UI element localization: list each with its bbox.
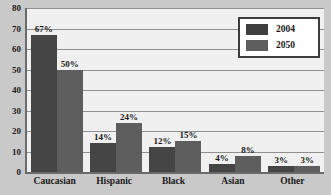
bar-caucasian-2004: 67% bbox=[31, 35, 57, 172]
x-axis: CaucasianHispanicBlackAsianOther bbox=[25, 177, 322, 193]
legend: 2004 2050 bbox=[238, 17, 320, 58]
y-axis-tick-60: 60 bbox=[0, 45, 21, 54]
bar-black-2004: 12% bbox=[149, 147, 175, 172]
x-axis-label-black: Black bbox=[162, 177, 185, 187]
bar-black-2050: 15% bbox=[175, 141, 201, 172]
bar-value-label: 8% bbox=[241, 146, 255, 155]
x-axis-label-caucasian: Caucasian bbox=[34, 177, 76, 187]
bar-value-label: 12% bbox=[153, 137, 171, 146]
y-axis-tick-30: 30 bbox=[0, 106, 21, 115]
bar-other-2050: 3% bbox=[294, 166, 320, 172]
y-axis-tick-20: 20 bbox=[0, 127, 21, 136]
bar-group-black: 12%15% bbox=[146, 8, 205, 172]
y-axis-tick-0: 0 bbox=[0, 168, 21, 177]
y-axis-tick-50: 50 bbox=[0, 65, 21, 74]
x-axis-label-hispanic: Hispanic bbox=[96, 177, 132, 187]
bar-value-label: 67% bbox=[35, 25, 53, 34]
bar-hispanic-2050: 24% bbox=[116, 123, 142, 172]
bar-value-label: 14% bbox=[94, 133, 112, 142]
y-axis-tick-10: 10 bbox=[0, 147, 21, 156]
legend-swatch-2004-icon bbox=[246, 24, 268, 35]
bar-value-label: 24% bbox=[120, 113, 138, 122]
y-axis-tick-70: 70 bbox=[0, 24, 21, 33]
bar-chart: 80706050403020100 67%50%14%24%12%15%4%8%… bbox=[0, 0, 331, 195]
bar-value-label: 4% bbox=[215, 154, 229, 163]
bar-group-caucasian: 67%50% bbox=[27, 8, 86, 172]
bar-value-label: 3% bbox=[275, 156, 289, 165]
bar-asian-2050: 8% bbox=[235, 156, 261, 172]
bar-value-label: 15% bbox=[179, 131, 197, 140]
bar-value-label: 50% bbox=[61, 60, 79, 69]
y-axis: 80706050403020100 bbox=[0, 0, 24, 175]
legend-swatch-2050-icon bbox=[246, 40, 268, 51]
legend-label-2004: 2004 bbox=[276, 25, 295, 35]
bar-value-label: 3% bbox=[301, 156, 315, 165]
bar-caucasian-2050: 50% bbox=[57, 70, 83, 173]
bar-other-2004: 3% bbox=[268, 166, 294, 172]
x-axis-label-asian: Asian bbox=[221, 177, 244, 187]
y-axis-tick-80: 80 bbox=[0, 4, 21, 13]
legend-label-2050: 2050 bbox=[276, 41, 295, 51]
legend-item-2004: 2004 bbox=[246, 24, 312, 35]
bar-asian-2004: 4% bbox=[209, 164, 235, 172]
y-axis-tick-40: 40 bbox=[0, 86, 21, 95]
bar-hispanic-2004: 14% bbox=[90, 143, 116, 172]
bar-group-hispanic: 14%24% bbox=[86, 8, 145, 172]
legend-item-2050: 2050 bbox=[246, 40, 312, 51]
x-axis-label-other: Other bbox=[280, 177, 304, 187]
